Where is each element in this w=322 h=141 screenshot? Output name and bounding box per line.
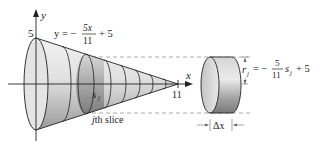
y-intercept-label: 5	[28, 27, 34, 39]
disk	[201, 57, 241, 113]
radius-arrow-down-icon	[244, 80, 247, 84]
eq-denominator: 11	[83, 36, 92, 46]
x-axis-label: x	[185, 69, 191, 81]
eq-rhs: + 5	[99, 28, 113, 39]
svg-text:j: j	[97, 94, 100, 102]
radius-numerator: 5	[275, 58, 280, 68]
slice-caption: jth slice	[90, 114, 124, 125]
curve-equation: y = − 5x 11 + 5	[54, 23, 113, 46]
thickness-arrow-left-icon	[233, 124, 237, 127]
thickness-arrow-right-icon	[205, 124, 209, 127]
radius-arrow-up-icon	[244, 58, 247, 62]
svg-text:+ 5: + 5	[296, 63, 310, 74]
thickness-label: Δx	[213, 120, 224, 131]
svg-text:= −: = −	[253, 63, 268, 74]
svg-text:s: s	[285, 63, 289, 74]
radius-denominator: 11	[272, 70, 281, 80]
svg-text:j: j	[246, 70, 249, 78]
x-axis-arrow-icon	[185, 81, 193, 87]
svg-text:s: s	[92, 88, 96, 100]
eq-numerator: 5x	[83, 23, 93, 33]
cone-diagram: y x 5 11 y = − 5x 11 + 5 s j jth slice r…	[0, 0, 322, 141]
disk-face	[201, 57, 219, 113]
radius-formula: r j = − 5 11 s j + 5	[242, 58, 310, 80]
y-axis-label: y	[40, 9, 46, 21]
svg-text:j: j	[289, 69, 292, 77]
x-intercept-label: 11	[172, 89, 182, 100]
svg-text:y = −: y = −	[54, 28, 76, 39]
y-axis-arrow-icon	[33, 9, 39, 17]
